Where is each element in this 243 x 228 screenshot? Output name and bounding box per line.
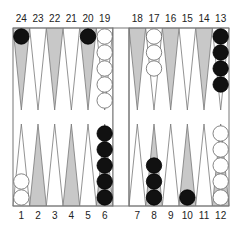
- point-14[interactable]: [196, 28, 213, 110]
- black-checker[interactable]: [213, 61, 228, 76]
- point-label-4: 4: [69, 210, 75, 221]
- point-label-9: 9: [168, 210, 174, 221]
- point-5[interactable]: [80, 124, 97, 206]
- black-checker[interactable]: [97, 126, 112, 141]
- white-checker[interactable]: [97, 29, 112, 44]
- black-checker[interactable]: [146, 174, 161, 189]
- point-label-6: 6: [102, 210, 108, 221]
- black-checker[interactable]: [146, 158, 161, 173]
- white-checker[interactable]: [14, 190, 29, 205]
- white-checker[interactable]: [213, 158, 228, 173]
- point-label-19: 19: [99, 13, 111, 24]
- black-checker[interactable]: [213, 45, 228, 60]
- point-label-16: 16: [165, 13, 177, 24]
- white-checker[interactable]: [97, 61, 112, 76]
- point-label-13: 13: [215, 13, 227, 24]
- point-3[interactable]: [46, 124, 63, 206]
- point-18[interactable]: [129, 28, 146, 110]
- point-label-21: 21: [66, 13, 78, 24]
- point-11[interactable]: [196, 124, 213, 206]
- point-label-17: 17: [148, 13, 160, 24]
- white-checker[interactable]: [14, 174, 29, 189]
- white-checker[interactable]: [146, 61, 161, 76]
- white-checker[interactable]: [213, 126, 228, 141]
- point-label-24: 24: [16, 13, 28, 24]
- point-label-11: 11: [199, 210, 210, 221]
- point-9[interactable]: [162, 124, 179, 206]
- bar: [113, 28, 129, 206]
- point-21[interactable]: [63, 28, 80, 110]
- black-checker[interactable]: [213, 29, 228, 44]
- point-23[interactable]: [30, 28, 47, 110]
- point-7[interactable]: [129, 124, 146, 206]
- point-2[interactable]: [30, 124, 47, 206]
- point-16[interactable]: [162, 28, 179, 110]
- point-label-1: 1: [19, 210, 25, 221]
- black-checker[interactable]: [97, 158, 112, 173]
- point-label-5: 5: [85, 210, 91, 221]
- backgammon-board: 242322212019181716151413 123456789101112: [0, 0, 243, 228]
- point-22[interactable]: [46, 28, 63, 110]
- point-label-23: 23: [32, 13, 44, 24]
- point-label-8: 8: [151, 210, 157, 221]
- white-checker[interactable]: [97, 77, 112, 92]
- black-checker[interactable]: [97, 142, 112, 157]
- black-checker[interactable]: [97, 174, 112, 189]
- top-point-labels: 242322212019181716151413: [16, 13, 227, 24]
- black-checker[interactable]: [213, 77, 228, 92]
- point-label-10: 10: [182, 210, 194, 221]
- point-label-18: 18: [132, 13, 144, 24]
- black-checker[interactable]: [80, 29, 95, 44]
- white-checker[interactable]: [146, 45, 161, 60]
- point-label-15: 15: [182, 13, 194, 24]
- point-label-20: 20: [82, 13, 94, 24]
- point-label-7: 7: [135, 210, 141, 221]
- point-label-22: 22: [49, 13, 61, 24]
- point-label-12: 12: [215, 210, 227, 221]
- black-checker[interactable]: [180, 190, 195, 205]
- white-checker[interactable]: [213, 174, 228, 189]
- black-checker[interactable]: [97, 190, 112, 205]
- point-15[interactable]: [179, 28, 196, 110]
- white-checker[interactable]: [213, 190, 228, 205]
- white-checker[interactable]: [146, 29, 161, 44]
- white-checker[interactable]: [97, 93, 112, 108]
- white-checker[interactable]: [213, 142, 228, 157]
- point-label-2: 2: [35, 210, 41, 221]
- point-label-14: 14: [198, 13, 210, 24]
- bottom-point-labels: 123456789101112: [19, 210, 227, 221]
- black-checker[interactable]: [146, 190, 161, 205]
- point-label-3: 3: [52, 210, 58, 221]
- white-checker[interactable]: [97, 45, 112, 60]
- black-checker[interactable]: [14, 29, 29, 44]
- point-4[interactable]: [63, 124, 80, 206]
